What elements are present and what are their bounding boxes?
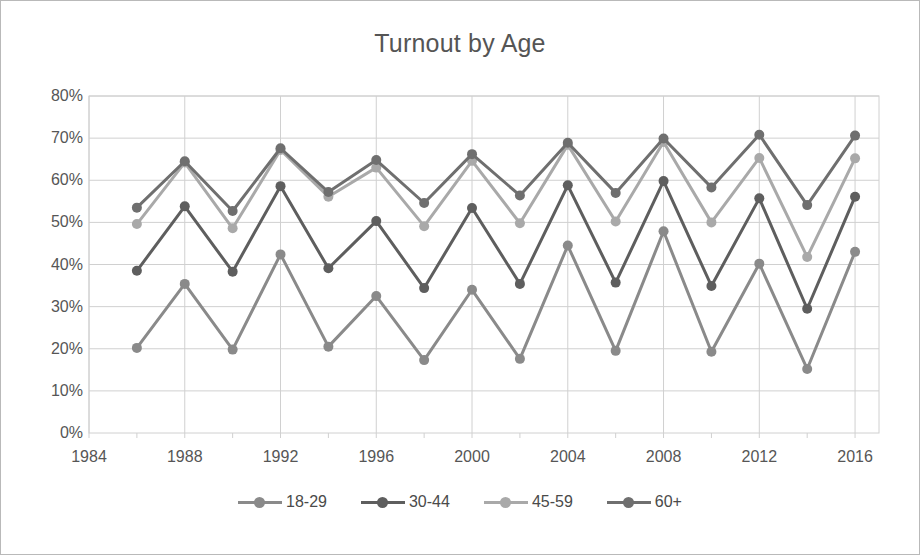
legend-label: 18-29 [286,493,327,511]
data-point [802,200,812,210]
data-point [467,149,477,159]
data-point [419,355,429,365]
y-tick-label: 50% [21,213,83,231]
data-point [659,226,669,236]
data-point [180,201,190,211]
x-tick-label: 2004 [550,448,586,466]
data-point [706,182,716,192]
data-point [563,138,573,148]
data-point [467,285,477,295]
data-point [659,176,669,186]
plot-svg [89,96,879,433]
data-point [228,223,238,233]
data-point [180,279,190,289]
data-point [850,153,860,163]
legend-swatch-icon [607,495,651,509]
data-point [276,143,286,153]
legend-label: 45-59 [532,493,573,511]
data-point [850,247,860,257]
data-point [371,216,381,226]
data-point [754,193,764,203]
data-point [611,217,621,227]
data-point [563,241,573,251]
y-tick-label: 40% [21,256,83,274]
data-point [515,218,525,228]
x-tick-label: 2016 [837,448,873,466]
x-tick-label: 2012 [742,448,778,466]
legend-label: 30-44 [409,493,450,511]
legend-swatch-icon [361,495,405,509]
data-point [132,343,142,353]
data-point [323,263,333,273]
data-point [611,278,621,288]
data-point [419,221,429,231]
data-point [419,283,429,293]
data-point [371,291,381,301]
x-tick-label: 1992 [263,448,299,466]
x-tick-label: 2008 [646,448,682,466]
legend-swatch-icon [238,495,282,509]
legend-item-45-59[interactable]: 45-59 [484,493,573,511]
y-tick-label: 80% [21,87,83,105]
y-tick-label: 70% [21,129,83,147]
legend-item-30-44[interactable]: 30-44 [361,493,450,511]
data-point [659,134,669,144]
x-tick-label: 1984 [71,448,107,466]
data-point [802,252,812,262]
chart-title: Turnout by Age [1,29,919,58]
data-point [802,364,812,374]
data-point [132,203,142,213]
chart-figure: Turnout by Age 0%10%20%30%40%50%60%70%80… [0,0,920,555]
x-tick-label: 2000 [454,448,490,466]
data-point [754,130,764,140]
data-point [276,181,286,191]
data-point [706,347,716,357]
data-point [563,180,573,190]
x-tick-label: 1988 [167,448,203,466]
y-axis: 0%10%20%30%40%50%60%70%80% [21,96,83,433]
data-point [754,153,764,163]
data-point [276,249,286,259]
y-tick-label: 60% [21,171,83,189]
legend-swatch-icon [484,495,528,509]
data-point [850,192,860,202]
legend-label: 60+ [655,493,682,511]
y-tick-label: 10% [21,382,83,400]
data-point [515,354,525,364]
plot-area [89,96,879,433]
data-point [850,131,860,141]
legend-item-60+[interactable]: 60+ [607,493,682,511]
data-point [132,219,142,229]
data-point [323,342,333,352]
y-tick-label: 0% [21,424,83,442]
legend-item-18-29[interactable]: 18-29 [238,493,327,511]
data-point [611,346,621,356]
data-point [754,259,764,269]
data-point [323,187,333,197]
chart-legend: 18-2930-4445-5960+ [1,493,919,511]
x-axis: 198419881992199620002004200820122016 [89,448,879,476]
data-point [228,206,238,216]
data-point [228,267,238,277]
y-tick-label: 30% [21,298,83,316]
data-point [467,203,477,213]
data-point [515,190,525,200]
data-point [419,198,429,208]
data-point [706,217,716,227]
data-point [515,279,525,289]
data-point [706,281,716,291]
x-tick-label: 1996 [358,448,394,466]
data-point [228,345,238,355]
data-point [611,188,621,198]
data-point [132,266,142,276]
data-point [180,156,190,166]
data-point [802,304,812,314]
y-tick-label: 20% [21,340,83,358]
data-point [371,155,381,165]
